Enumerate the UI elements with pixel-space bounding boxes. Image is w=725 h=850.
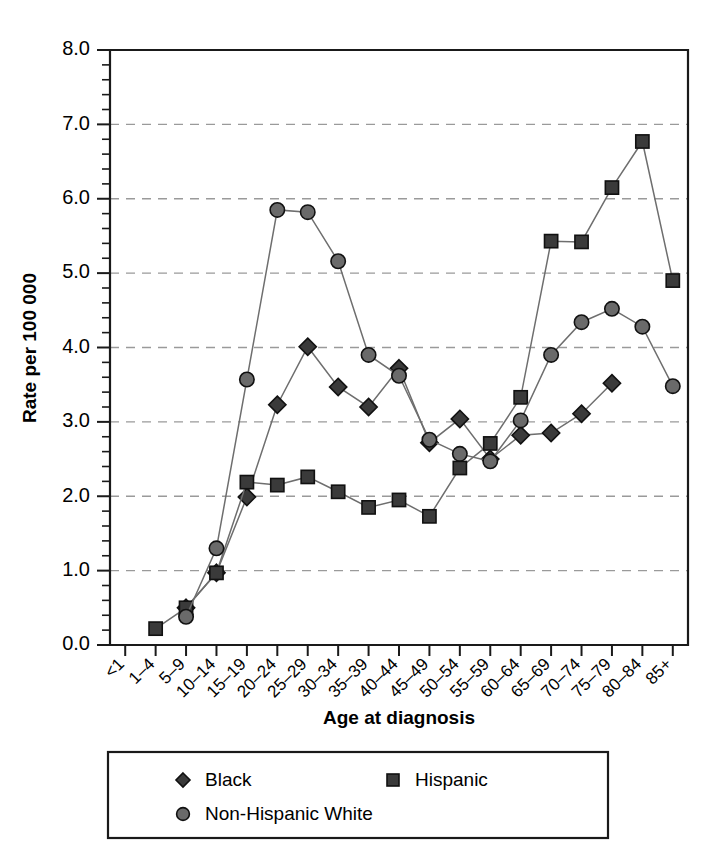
y-tick-label: 7.0 xyxy=(62,112,90,134)
legend-label: Non-Hispanic White xyxy=(205,803,373,824)
y-tick-label: 5.0 xyxy=(62,260,90,282)
y-tick-labels: 0.01.02.03.04.05.06.07.08.0 xyxy=(62,37,90,654)
y-tick-label: 8.0 xyxy=(62,37,90,59)
legend-marker-square xyxy=(387,774,399,786)
data-point xyxy=(605,302,619,316)
series-line xyxy=(156,141,673,628)
x-axis-title: Age at diagnosis xyxy=(323,707,475,728)
x-tick-label: 85+ xyxy=(642,654,676,688)
series-hispanic xyxy=(149,135,679,635)
y-tick-label: 1.0 xyxy=(62,558,90,580)
data-point xyxy=(514,391,527,404)
x-tick-labels: <11–45–910–1415–1920–2425–2930–3435–3940… xyxy=(101,654,676,701)
data-point xyxy=(330,378,347,395)
data-point xyxy=(453,447,467,461)
x-tick-label: <1 xyxy=(101,654,128,681)
data-point xyxy=(422,433,436,447)
legend-label: Hispanic xyxy=(415,769,488,790)
data-point xyxy=(483,454,497,468)
data-point xyxy=(666,274,679,287)
series-line xyxy=(186,210,673,617)
data-point xyxy=(269,396,286,413)
data-point xyxy=(513,413,527,427)
y-tick-label: 2.0 xyxy=(62,484,90,506)
data-point xyxy=(240,476,253,489)
y-tick-label: 0.0 xyxy=(62,632,90,654)
data-point xyxy=(332,485,345,498)
y-tick-label: 3.0 xyxy=(62,409,90,431)
data-point xyxy=(543,424,560,441)
data-point xyxy=(635,319,649,333)
y-axis-title: Rate per 100 000 xyxy=(19,273,40,423)
axis-ticks xyxy=(97,50,673,656)
data-point xyxy=(545,235,558,248)
data-point xyxy=(149,622,162,635)
data-point xyxy=(392,493,405,506)
data-point xyxy=(331,254,345,268)
data-point xyxy=(210,566,223,579)
data-point xyxy=(270,203,284,217)
data-point xyxy=(575,235,588,248)
data-point xyxy=(636,135,649,148)
data-point xyxy=(574,315,588,329)
data-series xyxy=(149,135,680,635)
chart-figure: 0.01.02.03.04.05.06.07.08.0 <11–45–910–1… xyxy=(0,0,725,850)
data-point xyxy=(423,510,436,523)
legend-border xyxy=(108,752,608,838)
data-point xyxy=(360,398,377,415)
data-point xyxy=(392,369,406,383)
data-point xyxy=(301,205,315,219)
data-point xyxy=(484,437,497,450)
legend-marker-circle xyxy=(177,808,190,821)
data-point xyxy=(240,372,254,386)
y-tick-label: 6.0 xyxy=(62,186,90,208)
data-point xyxy=(666,379,680,393)
data-point xyxy=(238,488,255,505)
data-point xyxy=(299,338,316,355)
data-point xyxy=(605,181,618,194)
y-tick-label: 4.0 xyxy=(62,335,90,357)
rate-by-age-line-chart: 0.01.02.03.04.05.06.07.08.0 <11–45–910–1… xyxy=(0,0,725,850)
data-point xyxy=(453,461,466,474)
data-point xyxy=(271,478,284,491)
data-point xyxy=(362,501,375,514)
data-point xyxy=(209,541,223,555)
data-point xyxy=(179,610,193,624)
data-point xyxy=(451,410,468,427)
chart-legend: BlackHispanicNon-Hispanic White xyxy=(108,752,608,838)
legend-label: Black xyxy=(205,769,252,790)
data-point xyxy=(544,348,558,362)
series-non-hispanic-white xyxy=(179,203,680,624)
data-point xyxy=(361,348,375,362)
x-tick-label: 1–4 xyxy=(125,654,158,687)
data-point xyxy=(301,470,314,483)
